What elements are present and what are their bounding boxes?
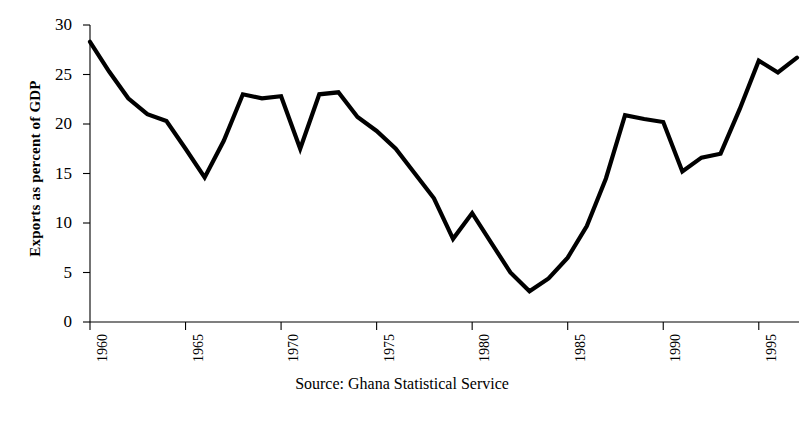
axes (90, 25, 799, 322)
y-axis-tick-label: 15 (42, 165, 72, 182)
y-axis-tick-label: 20 (42, 115, 72, 132)
x-axis-tick-label: 1990 (669, 334, 683, 362)
x-axis-tick-label: 1995 (765, 334, 779, 362)
x-axis-tick-label: 1965 (192, 334, 206, 362)
y-axis-ticks (83, 25, 90, 322)
plot-area (0, 0, 804, 430)
y-axis-tick-label: 5 (42, 264, 72, 281)
x-axis-tick-label: 1970 (287, 334, 301, 362)
y-axis-tick-label: 10 (42, 214, 72, 231)
data-series-line (90, 42, 797, 291)
x-axis-ticks (90, 322, 759, 330)
x-axis-tick-label: 1980 (478, 334, 492, 362)
y-axis-tick-label: 30 (42, 16, 72, 33)
y-axis-title: Exports as percent of GDP (27, 39, 44, 299)
x-axis-tick-label: 1960 (96, 334, 110, 362)
y-axis-tick-label: 25 (42, 66, 72, 83)
exports-gdp-line-chart: Exports as percent of GDP 051015202530 1… (0, 0, 804, 430)
y-axis-tick-label: 0 (42, 313, 72, 330)
x-axis-tick-label: 1975 (383, 334, 397, 362)
source-note: Source: Ghana Statistical Service (0, 375, 804, 393)
x-axis-tick-label: 1985 (574, 334, 588, 362)
